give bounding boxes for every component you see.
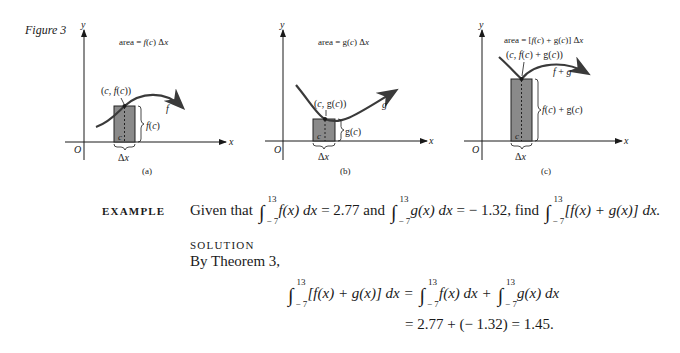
panel-c: y x O area = [f(c) + g(c)] Δx (c, f(c) +…: [464, 19, 629, 176]
origin-label: O: [472, 144, 479, 155]
caption-b: (b): [340, 166, 351, 176]
height-brace: [338, 119, 344, 141]
pointer-line: [522, 62, 524, 76]
solution-line-2: = 2.77 + (− 1.32) = 1.45.: [405, 316, 554, 333]
solution-intro: By Theorem 3,: [190, 253, 280, 270]
term2: g(x) dx: [517, 285, 559, 302]
example-statement: Given that ∫ 13 − 7 f(x) dx = 2.77 and ∫…: [190, 200, 660, 220]
curve-f: [96, 95, 182, 127]
dx-label: Δx: [118, 152, 129, 163]
lhs-integrand: [f(x) + g(x)] dx =: [307, 285, 413, 302]
height-label: f(c): [146, 120, 160, 132]
y-axis-label: y: [478, 19, 484, 30]
x-axis-label: x: [428, 135, 434, 146]
curve-label: f: [166, 103, 170, 114]
integral-limits: 13 − 7: [396, 200, 410, 220]
height-label: g(c): [345, 126, 361, 138]
x-axis-label: x: [228, 136, 234, 147]
origin-label: O: [74, 144, 81, 155]
point-marker: [520, 77, 524, 81]
g-value: = − 1.32, find: [457, 202, 539, 219]
x-axis-label: x: [623, 135, 629, 146]
integrand-sum: [f(x) + g(x)] dx.: [564, 202, 660, 219]
origin-label: O: [274, 144, 281, 155]
integral-limits: 13 − 7: [503, 283, 517, 303]
height-brace: [138, 106, 144, 142]
point-label: (c, f(c) + g(c)): [506, 49, 563, 61]
pointer-line: [121, 98, 124, 104]
point-label: (c, f(c)): [101, 85, 131, 97]
curve-label: f + g: [553, 66, 571, 77]
y-axis-label: y: [279, 19, 285, 30]
c-label: c: [118, 132, 122, 142]
c-label: c: [515, 131, 519, 141]
dx-brace: [114, 144, 135, 150]
example-heading: EXAMPLE: [102, 205, 165, 217]
dx-brace: [313, 143, 335, 149]
height-label: f(c) + g(c): [542, 104, 583, 116]
solution-heading: SOLUTION: [190, 239, 255, 251]
point-marker: [323, 117, 327, 121]
figure-3-diagrams: y x O area = f(c) Δx (c, f(c)) f(c) f c …: [0, 0, 680, 180]
caption-c: (c): [541, 166, 551, 176]
area-formula: area = f(c) Δx: [119, 37, 168, 47]
point-marker: [123, 104, 127, 108]
area-formula: area = [f(c) + g(c)] Δx: [504, 35, 583, 45]
dx-brace: [511, 143, 532, 149]
dx-label: Δx: [515, 151, 526, 162]
integral-limits: 13 − 7: [550, 200, 564, 220]
c-label: c: [317, 131, 321, 141]
integrand-g: g(x) dx: [410, 202, 452, 219]
integral-limits: 13 − 7: [264, 200, 278, 220]
height-brace: [535, 79, 541, 141]
term1: f(x) dx +: [439, 285, 492, 302]
solution-line-1: ∫ 13 − 7 [f(x) + g(x)] dx = ∫ 13 − 7 f(x…: [288, 283, 559, 303]
caption-a: (a): [142, 166, 152, 176]
panel-b: y x O area = g(c) Δx (c, g(c)) g(c) g c …: [265, 19, 434, 176]
panel-a: y x O area = f(c) Δx (c, f(c)) f(c) f c …: [65, 19, 234, 176]
f-value: = 2.77 and: [321, 202, 385, 219]
curve-f-plus-g: [499, 57, 587, 79]
integral-limits: 13 − 7: [293, 283, 307, 303]
given-prefix: Given that: [190, 202, 253, 219]
dx-label: Δx: [318, 151, 329, 162]
y-axis-label: y: [80, 19, 86, 30]
integral-limits: 13 − 7: [425, 283, 439, 303]
area-formula: area = g(c) Δx: [318, 37, 369, 47]
integrand-f: f(x) dx: [278, 202, 317, 219]
curve-label: g: [382, 99, 387, 110]
point-label: (c, g(c)): [314, 98, 346, 110]
